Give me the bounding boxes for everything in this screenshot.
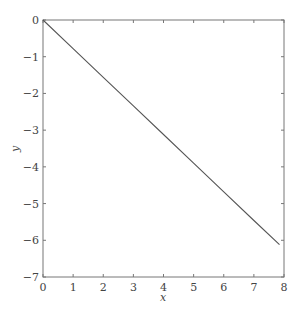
y-tick-label: −7 xyxy=(23,271,39,284)
plot-border xyxy=(43,20,284,277)
x-tick-label: 3 xyxy=(130,281,137,294)
y-axis-ticks: 0−1−2−3−4−5−6−7 xyxy=(23,14,284,284)
line-chart: 012345678 0−1−2−3−4−5−6−7 x y xyxy=(0,0,300,311)
x-axis-ticks: 012345678 xyxy=(40,20,288,294)
y-tick-label: −3 xyxy=(23,124,39,137)
x-tick-label: 8 xyxy=(281,281,288,294)
x-tick-label: 5 xyxy=(190,281,197,294)
y-tick-label: −5 xyxy=(23,198,39,211)
x-tick-label: 0 xyxy=(40,281,47,294)
x-tick-label: 7 xyxy=(250,281,257,294)
y-tick-label: −2 xyxy=(23,87,39,100)
y-axis-label: y xyxy=(9,145,22,153)
y-tick-label: −1 xyxy=(23,51,39,64)
data-series xyxy=(43,20,280,245)
y-tick-label: −4 xyxy=(23,161,39,174)
y-tick-label: −6 xyxy=(23,234,39,247)
x-tick-label: 1 xyxy=(70,281,77,294)
x-tick-label: 6 xyxy=(220,281,227,294)
y-tick-label: 0 xyxy=(32,14,39,27)
series-line xyxy=(43,20,280,245)
x-axis-label: x xyxy=(160,291,167,304)
x-tick-label: 2 xyxy=(100,281,107,294)
plot-frame xyxy=(43,20,284,277)
